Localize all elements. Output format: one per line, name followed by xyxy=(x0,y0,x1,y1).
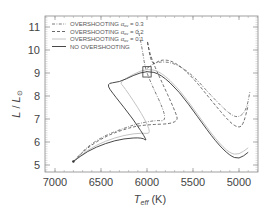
y-axis-label: L / L⊙ xyxy=(10,90,23,117)
legend-entry-label: NO OVERSHOOTING xyxy=(70,44,130,50)
hr-diagram-chart: 70006500600055005000567891011 OVERSHOOTI… xyxy=(0,0,272,210)
legend-prefix: OVERSHOOTING xyxy=(70,36,121,42)
legend-suffix: = 0.1 xyxy=(128,36,144,42)
legend-entry-label: OVERSHOOTING αov = 0.1 xyxy=(70,36,144,43)
legend-suffix: = 0.3 xyxy=(128,21,144,27)
y-tick-label: 7 xyxy=(34,113,40,125)
x-axis-label: Teff (K) xyxy=(134,193,166,206)
x-tick-label: 5000 xyxy=(227,176,251,188)
y-tick-label: 11 xyxy=(29,21,40,33)
y-tick-label: 5 xyxy=(34,159,40,171)
legend: OVERSHOOTING αov = 0.3OVERSHOOTING αov =… xyxy=(52,21,144,50)
legend-prefix: OVERSHOOTING xyxy=(70,21,121,27)
y-tick-label: 9 xyxy=(34,67,40,79)
legend-entry-label: OVERSHOOTING αov = 0.2 xyxy=(70,29,144,36)
y-tick-label: 10 xyxy=(28,44,40,56)
legend-prefix: NO OVERSHOOTING xyxy=(70,44,130,50)
x-label-unit: (K) xyxy=(148,193,166,205)
series-line xyxy=(147,62,250,117)
x-tick-label: 7000 xyxy=(43,176,67,188)
legend-suffix: = 0.2 xyxy=(128,29,144,35)
y-tick-label: 6 xyxy=(34,136,40,148)
legend-prefix: OVERSHOOTING xyxy=(70,29,121,35)
y-label-slash: / xyxy=(10,102,22,111)
y-label-sun-sub: ⊙ xyxy=(16,90,23,96)
series-line xyxy=(73,72,248,162)
zams-start-point xyxy=(72,160,74,162)
x-tick-label: 6000 xyxy=(135,176,159,188)
y-tick-label: 8 xyxy=(34,90,40,102)
legend-entry-label: OVERSHOOTING αov = 0.3 xyxy=(70,21,144,28)
x-tick-label: 6500 xyxy=(89,176,113,188)
x-tick-label: 5500 xyxy=(181,176,205,188)
